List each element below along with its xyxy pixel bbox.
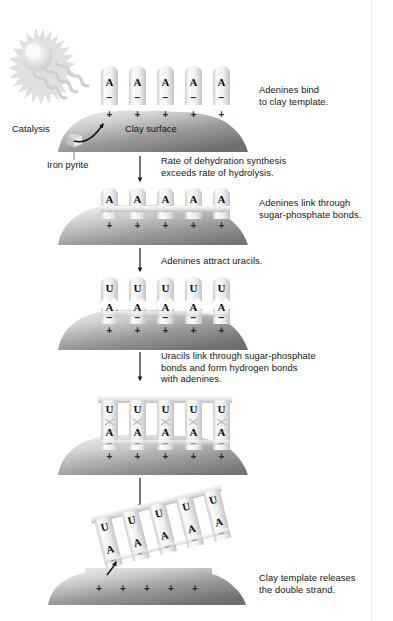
positive-sign: + — [191, 451, 197, 462]
base-letter-A: A — [134, 426, 142, 438]
stage-4-caption: Uracils link through sugar-phosphate bon… — [161, 351, 316, 386]
base-letter-U: U — [134, 403, 142, 415]
base-letter-A: A — [162, 426, 170, 438]
positive-sign: + — [219, 109, 225, 120]
positive-sign: + — [192, 583, 198, 594]
positive-sign: + — [163, 325, 169, 336]
released-double-strand: U A − U A − U A − U A − — [90, 484, 233, 569]
positive-sign: + — [120, 583, 126, 594]
sugar-phosphate-bond-bar — [101, 311, 230, 317]
base-letter-U: U — [134, 282, 142, 294]
stage-3-caption: Adenines attract uracils. — [161, 256, 263, 268]
stage-3: U U U U U A − + — [58, 277, 248, 350]
negative-sign: − — [191, 92, 197, 103]
base-letter-A: A — [106, 426, 114, 438]
positive-sign: + — [144, 583, 150, 594]
base-letter-A: A — [190, 426, 198, 438]
positive-sign: + — [107, 325, 113, 336]
catalysis-label: Catalysis — [12, 124, 50, 135]
positive-sign: + — [163, 451, 169, 462]
base-letter-A: A — [218, 193, 226, 205]
nucleotide-tile: U — [101, 277, 118, 302]
base-letter-A: A — [134, 76, 142, 88]
positive-sign: + — [163, 220, 169, 231]
base-letter-U: U — [162, 403, 170, 415]
positive-sign: + — [135, 109, 141, 120]
base-letter-A: A — [190, 76, 198, 88]
positive-sign: + — [219, 220, 225, 231]
stage-1: A − + A − + A − + A − — [58, 66, 248, 160]
rna-clay-template-diagram: A − + A − + A − + A − — [0, 0, 393, 621]
positive-sign: + — [135, 325, 141, 336]
positive-sign: + — [219, 451, 225, 462]
positive-sign: + — [107, 220, 113, 231]
base-letter-A: A — [162, 76, 170, 88]
base-letter-U: U — [106, 282, 114, 294]
base-letter-U: U — [106, 403, 114, 415]
base-letter-A: A — [106, 193, 114, 205]
stage-2: A − + A − + A − + A − + — [58, 188, 248, 245]
base-letter-A: A — [134, 193, 142, 205]
base-letter-U: U — [190, 403, 198, 415]
base-letter-U: U — [218, 282, 226, 294]
nucleotide-tile: U — [185, 277, 202, 302]
positive-sign: + — [107, 451, 113, 462]
base-letter-A: A — [218, 426, 226, 438]
iron-pyrite-icon — [67, 133, 82, 147]
positive-sign: + — [135, 451, 141, 462]
clay-surface-label: Clay surface — [125, 124, 177, 135]
iron-pyrite-label: Iron pyrite — [47, 160, 88, 171]
positive-sign: + — [135, 220, 141, 231]
sugar-phosphate-bond-bar — [101, 206, 230, 212]
flow-arrow-1-caption: Rate of dehydration synthesis exceeds ra… — [161, 156, 286, 179]
sugar-phosphate-bond-bar — [101, 440, 230, 445]
base-letter-U: U — [190, 282, 198, 294]
negative-sign: − — [163, 92, 169, 103]
uracil-tiles-stage-3: U U U U U — [101, 277, 230, 302]
positive-sign: + — [163, 109, 169, 120]
stage-4: U A − + U A − + U A − + — [58, 396, 248, 475]
positive-sign: + — [96, 583, 102, 594]
base-letter-A: A — [106, 76, 114, 88]
nucleotide-tile: A − + — [185, 66, 202, 120]
base-letter-A: A — [162, 193, 170, 205]
base-letter-A: A — [190, 193, 198, 205]
negative-sign: − — [219, 92, 225, 103]
base-letter-U: U — [218, 403, 226, 415]
stage-1-caption: Adenines bind to clay template. — [259, 85, 328, 108]
positive-sign: + — [219, 325, 225, 336]
positive-sign: + — [191, 325, 197, 336]
stage-5: + + + + + U A − U A − U A — [48, 484, 246, 605]
base-letter-U: U — [162, 282, 170, 294]
positive-sign: + — [168, 583, 174, 594]
nucleotide-tile: U — [213, 277, 230, 302]
positive-sign: + — [191, 220, 197, 231]
stage-5-caption: Clay template releases the double strand… — [259, 573, 356, 596]
negative-sign: − — [107, 92, 113, 103]
positive-sign: + — [191, 109, 197, 120]
positive-sign: + — [107, 109, 113, 120]
negative-sign: − — [135, 92, 141, 103]
stage-2-caption: Adenines link through sugar-phosphate bo… — [259, 198, 361, 221]
nucleotide-tile: A − + — [213, 66, 230, 120]
nucleotide-tile: U — [157, 277, 174, 302]
page-edge-line — [371, 0, 372, 621]
base-letter-A: A — [218, 76, 226, 88]
nucleotide-tile: U — [129, 277, 146, 302]
